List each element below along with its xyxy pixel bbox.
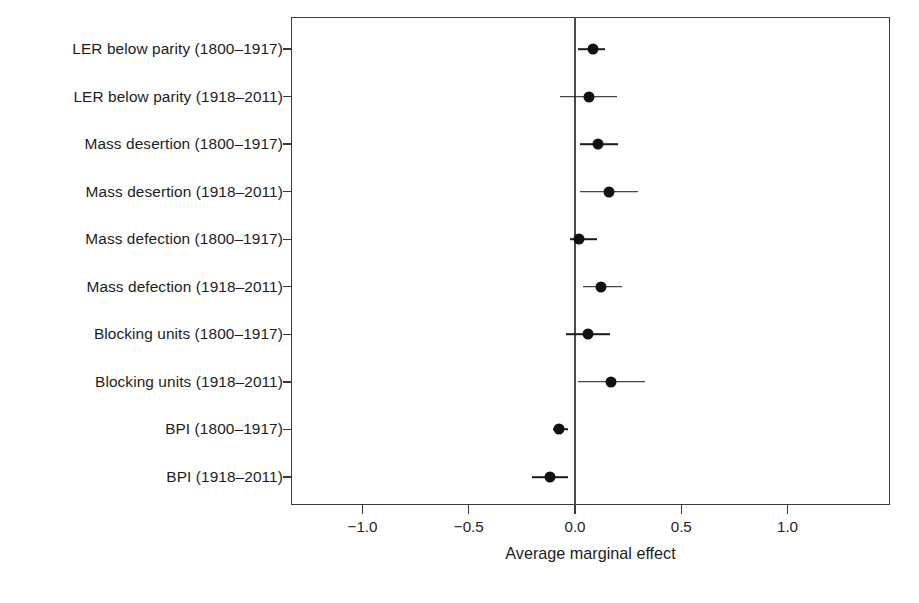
coefficient-plot-figure: LER below parity (1800–1917)LER below pa… [0, 0, 919, 603]
y-axis-tick-label: Mass defection (1800–1917) [85, 230, 283, 248]
x-axis-tick-mark [681, 505, 682, 514]
y-axis-tick-label: LER below parity (1918–2011) [73, 88, 283, 106]
x-axis-tick-mark [574, 505, 575, 514]
x-axis-tick-mark [362, 505, 363, 514]
y-axis-tick-label: Blocking units (1800–1917) [94, 325, 283, 343]
y-axis-tick-mark [283, 429, 291, 430]
zero-reference-line [574, 17, 575, 505]
y-axis-tick-mark [283, 476, 291, 477]
y-axis-tick-label: BPI (1800–1917) [165, 420, 283, 438]
estimate-point-marker [588, 44, 599, 55]
estimate-point-marker [554, 424, 565, 435]
y-axis-tick-mark [283, 191, 291, 192]
estimate-point-marker [606, 376, 617, 387]
estimate-point-marker [596, 281, 607, 292]
estimate-point-marker [574, 234, 585, 245]
x-axis-title: Average marginal effect [291, 544, 890, 563]
y-axis-tick-mark [283, 96, 291, 97]
x-axis-tick-mark [468, 505, 469, 514]
y-axis-tick-mark [283, 239, 291, 240]
x-axis-tick-label: −1.0 [348, 518, 378, 535]
estimate-point-marker [582, 329, 593, 340]
y-axis-tick-label: Mass desertion (1918–2011) [86, 183, 283, 201]
y-axis-tick-mark [283, 48, 291, 49]
y-axis-tick-label: Mass defection (1918–2011) [86, 278, 283, 296]
x-axis-tick-mark [787, 505, 788, 514]
x-axis-tick-label: 1.0 [777, 518, 798, 535]
y-axis-tick-label: LER below parity (1800–1917) [72, 40, 283, 58]
x-axis-tick-label: 0.5 [671, 518, 692, 535]
estimate-point-marker [584, 91, 595, 102]
estimate-point-marker [544, 471, 555, 482]
y-axis-tick-label: Mass desertion (1800–1917) [84, 135, 283, 153]
y-axis-tick-label: BPI (1918–2011) [166, 468, 283, 486]
y-axis-label-group: LER below parity (1800–1917)LER below pa… [0, 0, 283, 603]
y-axis-tick-mark [283, 334, 291, 335]
estimate-point-marker [592, 139, 603, 150]
y-axis-tick-mark [283, 143, 291, 144]
y-axis-tick-mark [283, 381, 291, 382]
x-axis-tick-label: −0.5 [454, 518, 484, 535]
x-axis-tick-label: 0.0 [564, 518, 585, 535]
y-axis-tick-mark [283, 286, 291, 287]
estimate-point-marker [604, 186, 615, 197]
plot-area-frame [291, 17, 890, 505]
y-axis-tick-label: Blocking units (1918–2011) [95, 373, 283, 391]
